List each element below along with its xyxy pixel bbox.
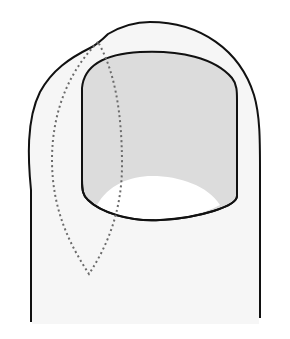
toe-skin-lower (32, 250, 259, 324)
toenail-illustration (0, 0, 290, 339)
toenail-diagram (0, 0, 290, 339)
